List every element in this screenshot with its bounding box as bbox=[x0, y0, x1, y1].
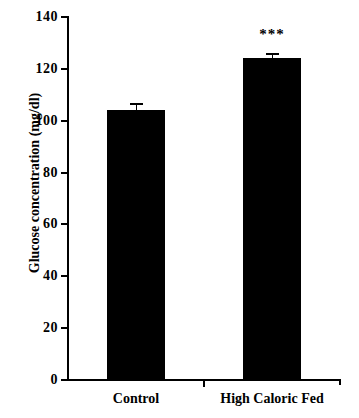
y-axis-tick-label: 0 bbox=[51, 373, 59, 387]
y-axis-tick bbox=[61, 223, 68, 225]
y-axis-tick-label: 100 bbox=[36, 114, 59, 128]
y-axis-tick bbox=[61, 327, 68, 329]
y-axis-tick bbox=[61, 68, 68, 70]
x-axis-category-label: High Caloric Fed bbox=[197, 392, 347, 406]
bar bbox=[243, 58, 301, 380]
y-axis-tick bbox=[61, 16, 68, 18]
y-axis-tick-label: 120 bbox=[36, 62, 59, 76]
bar bbox=[107, 110, 165, 380]
glucose-concentration-bar-chart: Glucose concentration (mg/dl) 0204060801… bbox=[0, 0, 359, 418]
y-axis-tick bbox=[61, 120, 68, 122]
x-axis-category-label: Control bbox=[61, 392, 211, 406]
error-bar-cap bbox=[266, 53, 279, 55]
y-axis-title: Glucose concentration (mg/dl) bbox=[27, 63, 43, 303]
y-axis-tick bbox=[61, 275, 68, 277]
x-axis-tick bbox=[203, 381, 205, 387]
y-axis-tick-label: 40 bbox=[43, 269, 58, 283]
error-bar-cap bbox=[130, 103, 143, 105]
y-axis-tick bbox=[61, 172, 68, 174]
significance-marker: *** bbox=[242, 27, 302, 42]
y-axis-tick-label: 60 bbox=[43, 217, 58, 231]
y-axis-tick-label: 80 bbox=[43, 166, 58, 180]
y-axis-tick-label: 140 bbox=[36, 10, 59, 24]
y-axis-tick-label: 20 bbox=[43, 321, 58, 335]
y-axis-tick bbox=[61, 379, 68, 381]
x-axis-end-tick bbox=[339, 379, 341, 385]
